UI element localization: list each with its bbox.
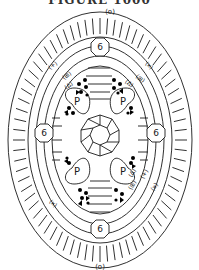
ring-symbol: (+) [46, 59, 58, 71]
p-label: P [74, 166, 80, 177]
central-star-polygon [81, 115, 119, 156]
p-label: P [120, 166, 126, 177]
hex-label-right: 6 [153, 128, 159, 138]
outer-mark-bottom: (o) [95, 263, 105, 270]
hex-label-top: 6 [97, 42, 103, 52]
hex-label-bottom: 6 [97, 224, 103, 234]
ring-symbol: (x) [144, 60, 155, 71]
ring-symbol: (⊞) [135, 72, 147, 84]
cross-section-diagram: P P P P 6 6 6 6 [0, 0, 199, 270]
p-label: P [74, 96, 80, 107]
ring-symbol: (+) [138, 168, 149, 180]
p-label: P [120, 96, 126, 107]
ring-symbol: (⊞) [60, 69, 72, 81]
hex-label-left: 6 [41, 128, 47, 138]
outer-mark-top: (o) [105, 8, 115, 16]
